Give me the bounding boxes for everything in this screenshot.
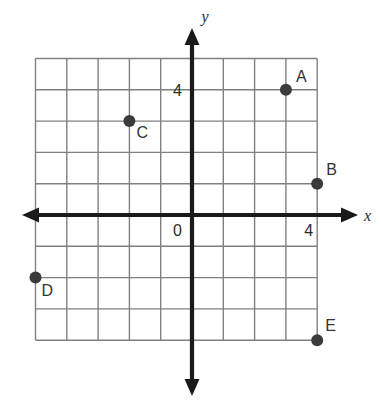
- coordinate-plane-figure: ABCDE yx404: [0, 0, 381, 411]
- y-axis-label: y: [199, 8, 209, 26]
- data-point-label-d: D: [42, 282, 54, 299]
- data-points: ABCDE: [30, 68, 337, 346]
- plot-canvas: ABCDE yx404: [0, 0, 381, 411]
- y-axis-arrow-up: [185, 28, 200, 45]
- x-axis-arrow-right: [341, 208, 358, 223]
- origin-label: 0: [173, 222, 182, 239]
- data-point-d: [30, 272, 42, 284]
- axis-annotations: yx404: [173, 8, 371, 239]
- grid-lines: [36, 59, 318, 341]
- data-point-e: [311, 334, 323, 346]
- y-axis-arrow-down: [185, 379, 200, 396]
- data-point-c: [123, 115, 135, 127]
- data-point-b: [311, 178, 323, 190]
- data-point-a: [280, 84, 292, 96]
- data-point-label-a: A: [296, 68, 307, 85]
- x-tick-label-4: 4: [304, 222, 313, 239]
- y-tick-label-4: 4: [173, 82, 182, 99]
- data-point-label-e: E: [325, 317, 336, 334]
- x-axis-label: x: [363, 207, 371, 224]
- data-point-label-b: B: [326, 161, 337, 178]
- x-axis-arrow-left: [22, 208, 39, 223]
- data-point-label-c: C: [136, 124, 148, 141]
